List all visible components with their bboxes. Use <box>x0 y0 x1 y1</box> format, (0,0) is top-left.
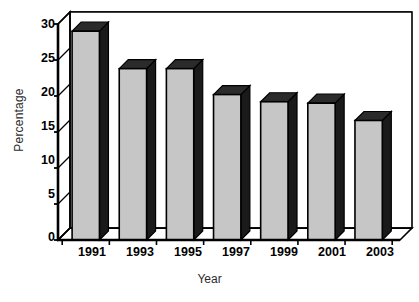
bar-side-face <box>147 60 156 240</box>
bar <box>308 94 344 240</box>
bar-side-face <box>194 60 203 240</box>
bar-side-face <box>335 94 344 240</box>
bar-front-face <box>355 120 382 240</box>
x-axis-tick-labels: 1991 1993 1995 1997 1999 2001 2003 <box>0 245 419 265</box>
bar-chart: Percentage 30 25 20 15 10 5 0 1991 1993 … <box>0 0 419 302</box>
x-tick-label: 1997 <box>222 245 250 259</box>
bar-side-face <box>382 111 391 240</box>
bar <box>355 111 391 240</box>
bar-front-face <box>72 31 99 240</box>
bar-front-face <box>166 69 193 240</box>
bar-front-face <box>214 95 241 240</box>
bar <box>166 60 202 240</box>
x-tick-label: 1999 <box>270 245 298 259</box>
bar-front-face <box>308 103 335 240</box>
x-tick-label: 1993 <box>126 245 154 259</box>
bar <box>72 22 108 240</box>
x-tick-label: 1995 <box>174 245 202 259</box>
gridline-depth-connector <box>58 120 70 132</box>
bar-side-face <box>241 86 250 240</box>
x-axis-title: Year <box>0 272 419 286</box>
gridline-depth-connector <box>58 156 70 168</box>
gridline-depth-connector <box>58 84 70 96</box>
bar <box>261 93 297 240</box>
x-tick-label: 2001 <box>318 245 346 259</box>
bar-side-face <box>288 93 297 240</box>
x-tick-label: 1991 <box>78 245 106 259</box>
bar-front-face <box>261 102 288 240</box>
bar-front-face <box>119 69 146 240</box>
bar <box>119 60 155 240</box>
gridline-depth-connector <box>58 48 70 60</box>
bar <box>214 86 250 240</box>
bar-side-face <box>99 22 108 240</box>
x-tick-label: 2003 <box>366 245 394 259</box>
gridline-depth-connector <box>58 192 70 204</box>
